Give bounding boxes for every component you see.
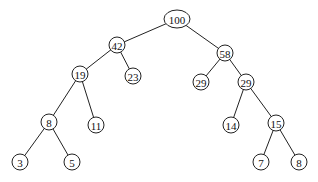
tree-node: 29: [193, 74, 209, 90]
node-label: 3: [17, 157, 23, 169]
node-label: 42: [112, 40, 123, 52]
node-label: 8: [46, 117, 52, 129]
tree-node: 100: [164, 10, 190, 28]
tree-node: 23: [125, 68, 141, 84]
node-label: 14: [226, 120, 238, 132]
tree-edges: [20, 19, 299, 162]
tree-node: 15: [268, 115, 284, 131]
tree-node: 3: [12, 154, 28, 170]
tree-node: 58: [217, 45, 233, 61]
node-label: 19: [75, 69, 87, 81]
tree-node: 8: [41, 114, 57, 130]
node-label: 58: [220, 48, 232, 60]
tree-node: 7: [253, 154, 269, 170]
node-label: 100: [169, 14, 186, 26]
tree-nodes: 10042581923292981114153578: [12, 10, 307, 170]
tree-node: 5: [64, 154, 80, 170]
tree-node: 8: [291, 154, 307, 170]
tree-node: 29: [238, 74, 254, 90]
node-label: 8: [296, 157, 302, 169]
tree-edge: [49, 74, 80, 122]
tree-node: 19: [72, 66, 88, 82]
node-label: 23: [128, 71, 140, 83]
node-label: 11: [91, 120, 102, 132]
node-label: 5: [69, 157, 75, 169]
node-label: 15: [271, 118, 283, 130]
node-label: 29: [196, 77, 208, 89]
tree-node: 14: [223, 117, 239, 133]
huffman-tree-diagram: 10042581923292981114153578: [0, 0, 318, 182]
tree-node: 42: [109, 37, 125, 53]
tree-node: 11: [88, 117, 104, 133]
node-label: 29: [241, 77, 253, 89]
node-label: 7: [258, 157, 264, 169]
